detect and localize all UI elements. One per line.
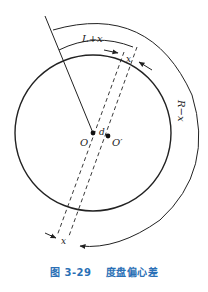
label-x-bottom: x bbox=[61, 236, 66, 246]
caption-number: 图 3-29 bbox=[50, 267, 92, 278]
center-point-o bbox=[91, 131, 96, 136]
eccentricity-diagram: L+x R−x x x d O O′ bbox=[0, 0, 208, 292]
label-x-top: x bbox=[126, 54, 131, 64]
offset-arrow-bottom-left bbox=[45, 233, 56, 238]
offset-arrow-top-right bbox=[139, 62, 152, 70]
label-r-minus-x: R−x bbox=[176, 99, 187, 122]
center-point-o-prime bbox=[106, 134, 111, 139]
label-o-prime: O′ bbox=[112, 137, 123, 148]
figure-caption: 图 3-29 度盘偏心差 bbox=[0, 264, 208, 279]
label-l-plus-x: L+x bbox=[81, 33, 103, 44]
label-o: O bbox=[80, 137, 88, 148]
caption-title: 度盘偏心差 bbox=[106, 267, 159, 278]
label-d: d bbox=[99, 127, 105, 137]
offset-arrow-top-left bbox=[104, 50, 118, 53]
